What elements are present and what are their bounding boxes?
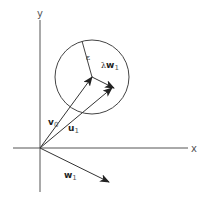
vector-diagram: x y ε v0 u1 λw1 w1	[0, 0, 207, 206]
u1-label: u1	[68, 123, 79, 135]
vector-v0	[40, 77, 92, 148]
radius-label: ε	[86, 53, 90, 62]
x-axis-label: x	[191, 143, 197, 154]
vector-lambda-w1	[92, 77, 114, 88]
v0-label: v0	[48, 117, 58, 129]
y-axis-label: y	[37, 8, 43, 19]
lambda-w1-label: λw1	[101, 60, 119, 72]
w1-label: w1	[64, 170, 77, 182]
